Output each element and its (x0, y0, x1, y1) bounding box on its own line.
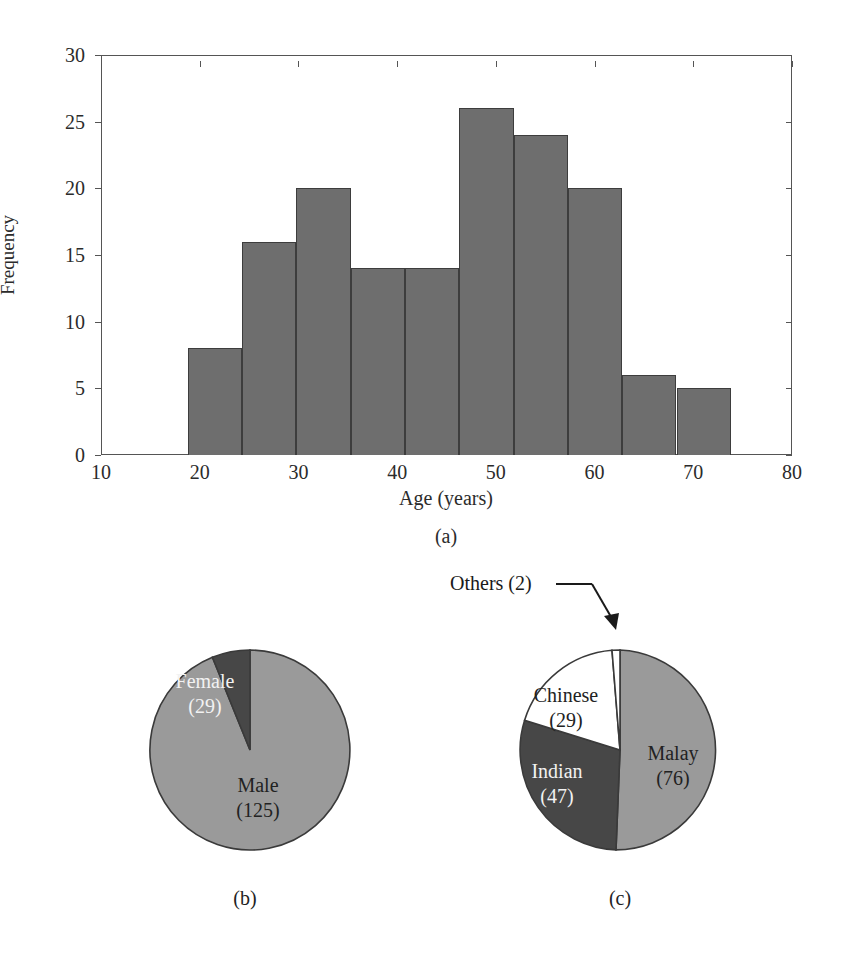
x-axis-title: Age (years) (399, 487, 493, 510)
x-tick-mark (200, 61, 201, 67)
y-tick-mark (95, 188, 101, 189)
y-tick-mark-right (786, 255, 792, 256)
x-tick-mark (397, 61, 398, 67)
histogram-bar (351, 268, 405, 455)
figure-root: 051015202530 1020304050607080 Frequency … (0, 0, 849, 953)
histogram-bar (188, 348, 242, 455)
x-tick-label: 20 (190, 461, 210, 484)
pie-charts-panel: Female (29) Male (125) Chinese (29) Indi… (0, 560, 849, 953)
pie-c-label-chinese-name: Chinese (534, 684, 599, 706)
pie-c-label-chinese-value: (29) (549, 709, 582, 732)
x-tick-label: 70 (683, 461, 703, 484)
y-tick-mark-right (786, 188, 792, 189)
y-tick-label: 0 (25, 444, 85, 467)
pie-c: Chinese (29) Indian (47) Malay (76) Othe… (450, 572, 716, 850)
x-tick-mark (496, 61, 497, 67)
y-tick-mark (95, 255, 101, 256)
x-tick-mark (792, 61, 793, 67)
pie-c-label-malay-name: Malay (647, 742, 698, 765)
y-tick-label: 30 (25, 44, 85, 67)
pie-b: Female (29) Male (125) (150, 650, 350, 850)
pie-c-label-indian-value: (47) (540, 785, 573, 808)
x-tick-label: 40 (387, 461, 407, 484)
histogram-bar (405, 268, 459, 455)
caption-a: (a) (435, 525, 457, 548)
pie-b-label-female-name: Female (176, 670, 235, 692)
histogram-bar (459, 108, 513, 455)
others-annotation-arrow-head (604, 613, 619, 630)
y-tick-mark (95, 455, 101, 456)
caption-c: (c) (609, 887, 631, 910)
x-tick-label: 80 (782, 461, 802, 484)
pie-b-label-female-value: (29) (188, 695, 221, 718)
x-tick-mark (595, 61, 596, 67)
histogram-bar (514, 135, 568, 455)
y-tick-mark (95, 322, 101, 323)
x-tick-label: 30 (288, 461, 308, 484)
y-tick-mark-right (786, 388, 792, 389)
x-tick-label: 50 (486, 461, 506, 484)
y-tick-mark-right (786, 322, 792, 323)
pie-c-label-malay-value: (76) (656, 767, 689, 790)
y-tick-label: 25 (25, 110, 85, 133)
y-tick-mark-right (786, 455, 792, 456)
y-tick-mark (95, 55, 101, 56)
x-tick-label: 10 (91, 461, 111, 484)
caption-b: (b) (233, 887, 256, 910)
y-axis-title: Frequency (0, 215, 19, 295)
y-tick-label: 15 (25, 244, 85, 267)
histogram-bar (568, 188, 622, 455)
y-tick-mark-right (786, 55, 792, 56)
x-tick-label: 60 (585, 461, 605, 484)
histogram-bar (677, 388, 731, 455)
y-tick-label: 5 (25, 377, 85, 400)
y-tick-mark (95, 122, 101, 123)
y-tick-mark (95, 388, 101, 389)
pie-b-label-male-name: Male (237, 774, 278, 796)
pie-c-others-annotation-text: Others (2) (450, 572, 532, 595)
histogram-bar (296, 188, 350, 455)
histogram-bar (242, 242, 296, 455)
y-tick-mark-right (786, 122, 792, 123)
pie-b-label-male-value: (125) (236, 799, 279, 822)
pie-c-label-indian-name: Indian (531, 760, 582, 782)
y-tick-label: 10 (25, 310, 85, 333)
x-tick-mark (101, 61, 102, 67)
histogram-bar (622, 375, 676, 455)
y-tick-label: 20 (25, 177, 85, 200)
histogram-bars (101, 55, 792, 455)
x-tick-mark (298, 61, 299, 67)
histogram-panel: 051015202530 1020304050607080 Frequency … (0, 0, 849, 500)
x-tick-mark (693, 61, 694, 67)
